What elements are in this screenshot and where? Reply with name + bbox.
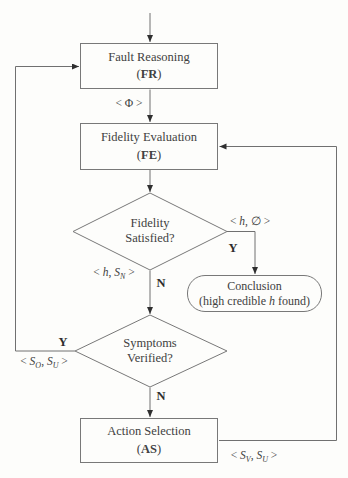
- fault-reasoning-abbr: FR: [141, 67, 158, 81]
- edge-label-h-sn: < h, SN >: [93, 266, 134, 278]
- label-part: >: [125, 266, 134, 278]
- fidelity-evaluation-node: Fidelity Evaluation (FE): [80, 123, 218, 170]
- symptoms-verified-line1: Symptoms: [90, 336, 210, 351]
- label-part: <: [93, 266, 102, 278]
- conclusion-title: Conclusion: [227, 279, 282, 293]
- paren-close: ): [157, 148, 161, 162]
- fidelity-evaluation-title: Fidelity Evaluation: [101, 129, 197, 147]
- action-selection-abbr: AS: [141, 442, 157, 456]
- edge-label-sv-su: < SV, SU >: [231, 449, 278, 461]
- fidelity-evaluation-abbr: FE: [141, 148, 157, 162]
- flowchart-figure: Fault Reasoning (FR) Fidelity Evaluation…: [0, 0, 348, 478]
- label-part: <: [230, 215, 239, 227]
- fault-reasoning-title: Fault Reasoning: [108, 49, 190, 67]
- action-selection-abbr-line: (AS): [137, 441, 161, 459]
- action-selection-node: Action Selection (AS): [80, 418, 218, 463]
- fault-reasoning-abbr-line: (FR): [136, 66, 161, 84]
- conclusion-detail-post: found): [275, 294, 310, 308]
- conclusion-detail-pre: (high credible: [199, 294, 269, 308]
- branch-no-symptoms: N: [156, 389, 165, 404]
- action-selection-title: Action Selection: [107, 423, 191, 441]
- label-part: >: [268, 449, 277, 461]
- paren-close: ): [157, 442, 161, 456]
- fidelity-satisfied-line2: Satisfied?: [90, 231, 210, 246]
- symptoms-verified-text: Symptoms Verified?: [90, 336, 210, 366]
- edge-label-so-su: < SO, SU >: [20, 355, 68, 367]
- fidelity-evaluation-abbr-line: (FE): [137, 147, 161, 165]
- label-part: <: [20, 355, 29, 367]
- conclusion-node: Conclusion (high credible h found): [187, 275, 322, 312]
- symptoms-verified-line2: Verified?: [90, 351, 210, 366]
- branch-yes-fidelity: Y: [228, 241, 237, 256]
- label-part: >: [58, 355, 67, 367]
- branch-yes-symptoms: Y: [58, 335, 67, 350]
- conclusion-detail: (high credible h found): [199, 294, 310, 308]
- fidelity-satisfied-text: Fidelity Satisfied?: [90, 216, 210, 246]
- fault-reasoning-node: Fault Reasoning (FR): [80, 43, 218, 89]
- paren-close: ): [157, 67, 161, 81]
- label-part: <: [231, 449, 240, 461]
- branch-no-fidelity: N: [156, 276, 165, 291]
- edge-label-h-empty: < h, ∅ >: [230, 214, 270, 228]
- label-part: , ∅ >: [245, 215, 270, 227]
- fidelity-satisfied-line1: Fidelity: [90, 216, 210, 231]
- edge-label-phi: < Φ >: [115, 97, 142, 109]
- edge-yes-loop-to-fault-reasoning: [16, 67, 80, 352]
